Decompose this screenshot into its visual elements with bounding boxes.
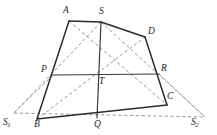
ray-R-to-S2	[159, 74, 205, 117]
label-S2-subscript: 2	[195, 121, 198, 128]
label-T: T	[99, 77, 104, 87]
diagonal-B-D	[37, 37, 145, 119]
geometry-diagram-canvas	[0, 0, 217, 135]
label-B: B	[34, 120, 40, 130]
geometry-figure: A S D P T R B Q C S1 S2	[0, 0, 217, 135]
ray-S-to-S1	[14, 22, 101, 113]
label-P: P	[41, 65, 47, 75]
label-Q: Q	[94, 120, 101, 130]
label-D: D	[148, 27, 155, 37]
segment-S-D	[101, 22, 145, 37]
segment-A-S	[69, 21, 101, 22]
segment-S-Q	[97, 22, 101, 118]
label-S1-subscript: 1	[7, 121, 10, 128]
segment-P-R	[53, 74, 159, 75]
segment-C-B	[37, 105, 167, 119]
label-C: C	[167, 92, 173, 102]
label-S: S	[99, 7, 104, 17]
label-S1: S1	[3, 118, 11, 128]
label-S2: S2	[191, 118, 199, 128]
label-R: R	[161, 64, 167, 74]
label-A: A	[63, 6, 69, 16]
